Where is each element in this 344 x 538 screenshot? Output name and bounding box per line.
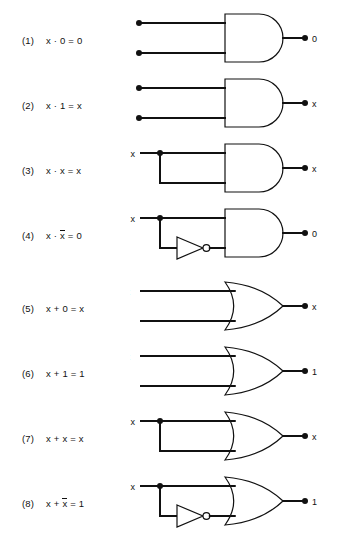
identity-row: (4)x · x = 0x0 xyxy=(0,203,344,268)
gate-circuit: x0x xyxy=(130,276,344,341)
or-gate-body xyxy=(225,347,283,395)
equation-index: (6) xyxy=(22,368,46,379)
fanout-branch-wire xyxy=(160,486,177,516)
input-label-top: x xyxy=(130,352,131,362)
equation-index: (2) xyxy=(22,100,46,111)
output-terminal-dot xyxy=(302,368,308,374)
fanout-branch-wire xyxy=(160,218,177,248)
equation-label: (2)x · 1 = x xyxy=(22,95,140,115)
equation-label: (6)x + 1 = 1 xyxy=(22,363,140,383)
inverter-bubble-icon xyxy=(203,513,210,520)
gate-circuit: xx xyxy=(130,138,344,203)
input-terminal-dot-top xyxy=(136,20,142,26)
and-gate-body xyxy=(225,209,283,257)
equation-label: (1)x · 0 = 0 xyxy=(22,30,140,50)
gate-circuit: x11 xyxy=(130,341,344,406)
equation-index: (4) xyxy=(22,230,46,241)
equation-label: (4)x · x = 0 xyxy=(22,225,140,245)
and-gate-body xyxy=(225,79,283,127)
gate-circuit: x1x xyxy=(130,73,344,138)
output-terminal-dot xyxy=(302,165,308,171)
equation-index: (5) xyxy=(22,303,46,314)
input-label-top: x xyxy=(130,287,131,297)
output-label: x xyxy=(312,432,317,442)
fanout-junction-dot xyxy=(157,483,163,489)
equation-index: (1) xyxy=(22,35,46,46)
equation-index: (8) xyxy=(22,498,46,509)
input-label-top: x xyxy=(130,19,131,29)
equation-label: (5)x + 0 = x xyxy=(22,298,140,318)
output-label: x xyxy=(312,302,317,312)
equation-index: (3) xyxy=(22,165,46,176)
fanout-branch-wire xyxy=(160,153,225,183)
or-gate-body xyxy=(225,412,283,460)
output-terminal-dot xyxy=(302,433,308,439)
equation-label: (7)x + x = x xyxy=(22,428,140,448)
input-terminal-dot-bottom xyxy=(136,50,142,56)
output-label: x xyxy=(312,99,317,109)
equation-text-post: = 0 xyxy=(65,230,82,241)
fanout-junction-dot xyxy=(157,215,163,221)
equation-text-pre: x + xyxy=(46,498,62,509)
identity-row: (2)x · 1 = xx1x xyxy=(0,73,344,138)
equation-text: x · x = x xyxy=(46,165,81,176)
input-terminal-dot-top xyxy=(136,85,142,91)
equation-text-pre: x · xyxy=(46,230,60,241)
gate-circuit: x00 xyxy=(130,8,344,73)
or-gate-body xyxy=(225,477,283,525)
input-label-top: x xyxy=(131,417,136,427)
equation-text: x + x = x xyxy=(46,433,84,444)
equation-text: x · 1 = x xyxy=(46,100,82,111)
inverter-triangle xyxy=(177,237,203,259)
input-label-top: x xyxy=(131,149,136,159)
output-terminal-dot xyxy=(302,35,308,41)
identity-row: (8)x + x = 1x1 xyxy=(0,471,344,536)
and-gate-body xyxy=(225,144,283,192)
equation-text: x + 1 = 1 xyxy=(46,368,85,379)
equation-text: x + 0 = x xyxy=(46,303,84,314)
output-label: 0 xyxy=(312,34,317,44)
inverter-bubble-icon xyxy=(203,245,210,252)
equation-text: x · 0 = 0 xyxy=(46,35,82,46)
input-label-top: x xyxy=(131,482,136,492)
or-gate-body xyxy=(225,282,283,330)
input-terminal-dot-bottom xyxy=(136,115,142,121)
output-terminal-dot xyxy=(302,230,308,236)
and-gate-body xyxy=(225,14,283,62)
fanout-junction-dot xyxy=(157,150,163,156)
identity-row: (7)x + x = xxx xyxy=(0,406,344,471)
identity-row: (3)x · x = xxx xyxy=(0,138,344,203)
output-label: 0 xyxy=(312,229,317,239)
fanout-branch-wire xyxy=(160,421,235,451)
output-terminal-dot xyxy=(302,100,308,106)
output-terminal-dot xyxy=(302,303,308,309)
input-label-top: x xyxy=(131,214,136,224)
gate-circuit: xx xyxy=(130,406,344,471)
identity-row: (6)x + 1 = 1x11 xyxy=(0,341,344,406)
equation-label: (8)x + x = 1 xyxy=(22,493,140,513)
fanout-junction-dot xyxy=(157,418,163,424)
output-terminal-dot xyxy=(302,498,308,504)
identity-row: (1)x · 0 = 0x00 xyxy=(0,8,344,73)
output-label: x xyxy=(312,164,317,174)
output-label: 1 xyxy=(312,367,317,377)
inverter-triangle xyxy=(177,505,203,527)
gate-circuit: x1 xyxy=(130,471,344,536)
input-label-top: x xyxy=(130,84,131,94)
logic-diagram-sheet: (1)x · 0 = 0x00(2)x · 1 = xx1x(3)x · x =… xyxy=(0,0,344,538)
output-label: 1 xyxy=(312,497,317,507)
gate-circuit: x0 xyxy=(130,203,344,268)
equation-text-post: = 1 xyxy=(67,498,84,509)
equation-label: (3)x · x = x xyxy=(22,160,140,180)
equation-index: (7) xyxy=(22,433,46,444)
identity-row: (5)x + 0 = xx0x xyxy=(0,276,344,341)
